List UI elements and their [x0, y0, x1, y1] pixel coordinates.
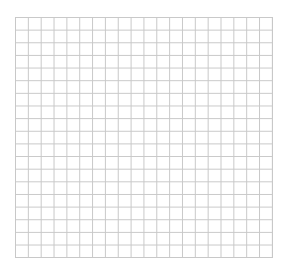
grid-paper — [15, 17, 273, 258]
